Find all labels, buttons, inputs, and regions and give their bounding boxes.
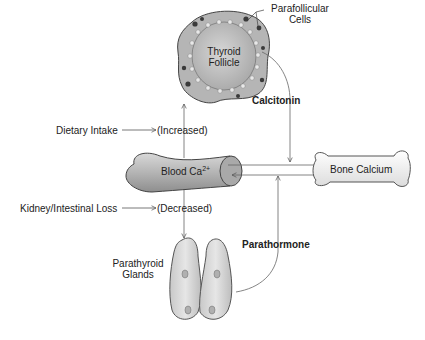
blood-calcium-text: Blood Ca [161,166,202,177]
parathormone-label: Parathormone [242,239,310,250]
thyroid-label-line2: Follicle [203,57,245,68]
parafollicular-label-line2: Cells [262,14,338,25]
calcitonin-label: Calcitonin [252,95,300,106]
parafollicular-label-line1: Parafollicular [262,3,338,14]
parathyroid-label-line2: Glands [108,269,168,280]
dietary-intake-label: Dietary Intake [56,125,118,136]
blood-calcium-superscript: 2+ [202,165,210,172]
parathormone-arrow [236,176,278,292]
decreased-label: (Decreased) [157,203,212,214]
thyroid-follicle-label: Thyroid Follicle [203,46,245,68]
increased-label: (Increased) [157,125,208,136]
thyroid-label-line1: Thyroid [203,46,245,57]
blood-calcium-label: Blood Ca2+ [161,166,210,177]
parafollicular-label: Parafollicular Cells [262,3,338,25]
parathyroid-label-line1: Parathyroid [108,258,168,269]
bone-calcium-label: Bone Calcium [330,164,392,175]
kidney-loss-label: Kidney/Intestinal Loss [20,203,117,214]
parathyroid-glands-icon [170,238,232,319]
parathyroid-label: Parathyroid Glands [108,258,168,280]
